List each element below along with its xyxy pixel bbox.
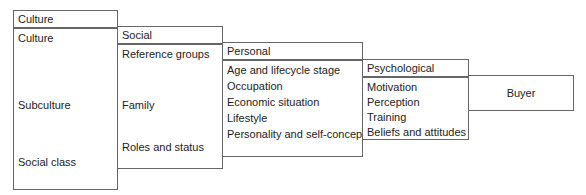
social-item: Reference groups [122, 48, 209, 60]
psychological-item: Training [367, 111, 406, 123]
culture-item: Social class [18, 156, 76, 168]
psychological-box: Psychological Motivation Perception Trai… [362, 59, 469, 140]
personal-header: Personal [223, 43, 362, 61]
personal-item: Age and lifecycle stage [227, 64, 340, 76]
psychological-item: Perception [367, 96, 420, 108]
social-item: Family [122, 99, 154, 111]
psychological-item: Motivation [367, 81, 417, 93]
personal-item: Personality and self-concept [227, 128, 365, 140]
personal-box: Personal Age and lifecycle stage Occupat… [222, 42, 363, 157]
buyer-box: Buyer [468, 75, 574, 111]
culture-box: Culture Culture Subculture Social class [13, 10, 118, 190]
psychological-header: Psychological [363, 60, 468, 78]
psychological-item: Beliefs and attitudes [367, 126, 466, 138]
social-box: Social Reference groups Family Roles and… [117, 26, 223, 169]
personal-item: Lifestyle [227, 112, 267, 124]
buyer-label: Buyer [469, 87, 573, 99]
culture-item: Subculture [18, 99, 71, 111]
personal-item: Occupation [227, 80, 283, 92]
personal-item: Economic situation [227, 96, 319, 108]
social-item: Roles and status [122, 141, 204, 153]
social-header: Social [118, 27, 222, 45]
culture-header: Culture [14, 11, 117, 29]
culture-item: Culture [18, 32, 53, 44]
